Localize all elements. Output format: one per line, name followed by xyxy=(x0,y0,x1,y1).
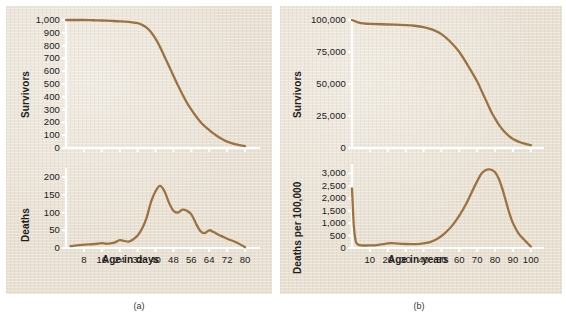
data-curve xyxy=(352,169,531,246)
y-tick-label: 1,000 xyxy=(36,14,60,25)
y-tick-label: 200 xyxy=(44,116,60,127)
y-tick-label: 2,500 xyxy=(322,180,346,191)
panel-b-survivors-ylabel: Survivors xyxy=(292,71,303,118)
y-tick-label: 50 xyxy=(49,224,60,235)
y-tick-label: 25,000 xyxy=(316,110,346,121)
chart-panel-a-deaths: Deaths Age in days 050100150200816243240… xyxy=(6,156,272,294)
caption-b: (b) xyxy=(399,301,439,311)
y-tick-label: 75,000 xyxy=(316,46,346,57)
data-curve xyxy=(66,20,245,146)
y-tick-label: 0 xyxy=(341,242,346,253)
panel-b-deaths-ylabel: Deaths per 100,000 xyxy=(292,182,303,274)
y-tick-label: 50,000 xyxy=(316,78,346,89)
y-tick-label: 2,000 xyxy=(322,192,346,203)
y-tick-label: 500 xyxy=(330,230,346,241)
y-tick-label: 800 xyxy=(44,40,60,51)
figure-survivorship-mortality: Survivors 01002003004005006007008009001,… xyxy=(0,0,566,318)
y-tick-label: 100 xyxy=(44,207,60,218)
y-tick-label: 900 xyxy=(44,27,60,38)
y-tick-label: 150 xyxy=(44,189,60,200)
x-tick-label: 100 xyxy=(517,254,545,265)
data-curve xyxy=(352,20,531,145)
data-curve xyxy=(70,186,245,247)
y-tick-label: 0 xyxy=(55,242,60,253)
chart-panel-b-survivors: Survivors 025,00050,00075,000100,000 xyxy=(280,6,562,156)
y-tick-label: 100 xyxy=(44,129,60,140)
chart-panel-a-survivors: Survivors 01002003004005006007008009001,… xyxy=(6,6,272,156)
panel-a-survivors-ylabel: Survivors xyxy=(20,71,31,118)
caption-a: (a) xyxy=(119,301,159,311)
y-tick-label: 0 xyxy=(55,142,60,153)
panel-divider xyxy=(272,6,280,294)
y-tick-label: 3,000 xyxy=(322,167,346,178)
y-tick-label: 500 xyxy=(44,78,60,89)
y-tick-label: 600 xyxy=(44,65,60,76)
y-tick-label: 1,500 xyxy=(322,205,346,216)
y-tick-label: 200 xyxy=(44,171,60,182)
y-tick-label: 700 xyxy=(44,52,60,63)
panel-a-deaths-ylabel: Deaths xyxy=(20,208,31,242)
x-tick-label: 80 xyxy=(231,254,259,265)
y-tick-label: 400 xyxy=(44,91,60,102)
y-tick-label: 1,000 xyxy=(322,217,346,228)
chart-panel-b-deaths: Deaths per 100,000 Age in years 05001,00… xyxy=(280,156,562,294)
y-tick-label: 100,000 xyxy=(311,14,346,25)
y-tick-label: 300 xyxy=(44,104,60,115)
y-tick-label: 0 xyxy=(341,142,346,153)
